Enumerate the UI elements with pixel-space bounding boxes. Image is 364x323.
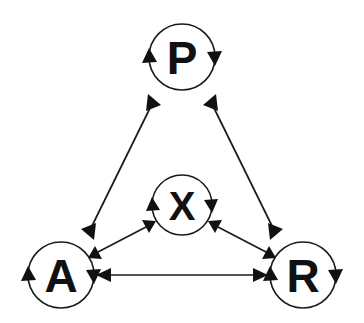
edge-a-x-line xyxy=(98,227,146,252)
edge-a-r[interactable] xyxy=(96,268,268,282)
node-r[interactable]: R xyxy=(263,242,343,308)
edge-p-r-arrowhead-to-r xyxy=(268,223,283,240)
edge-a-p-arrowhead-to-a xyxy=(81,223,96,240)
edge-x-r-arrowhead-to-x xyxy=(208,220,222,233)
node-x-label: X xyxy=(169,184,196,228)
node-a[interactable]: A xyxy=(21,242,101,308)
node-p[interactable]: P xyxy=(142,24,222,90)
diagram-svg: P X A R xyxy=(0,0,364,323)
node-p-label: P xyxy=(167,32,198,84)
diagram-canvas: P X A R xyxy=(0,0,364,323)
edge-x-r[interactable] xyxy=(208,220,276,259)
edge-a-p-arrowhead-to-p xyxy=(146,94,161,111)
edge-a-x[interactable] xyxy=(88,220,156,259)
edge-a-x-arrowhead-to-x xyxy=(142,220,156,233)
node-r-label: R xyxy=(286,250,319,302)
edge-p-r-arrowhead-to-p xyxy=(203,94,218,111)
node-a-label: A xyxy=(44,250,77,302)
edge-a-p[interactable] xyxy=(81,94,161,240)
edge-p-r-line xyxy=(212,104,274,230)
node-x[interactable]: X xyxy=(146,175,218,235)
edge-a-x-arrowhead-to-a xyxy=(88,246,102,259)
edge-x-r-arrowhead-to-r xyxy=(262,246,276,259)
edge-a-p-line xyxy=(90,104,152,230)
edge-p-r[interactable] xyxy=(203,94,283,240)
edge-x-r-line xyxy=(218,227,266,252)
